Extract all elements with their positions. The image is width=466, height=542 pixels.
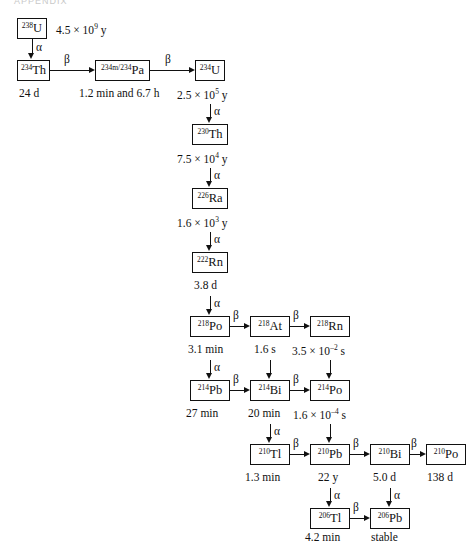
decay-mode-bi214-tl210: α — [274, 426, 280, 438]
element-symbol-po218: Po — [209, 320, 222, 333]
nuclide-box-pb210[interactable]: 210Pb — [310, 444, 350, 465]
nuclide-box-po210[interactable]: 210Po — [426, 444, 466, 465]
nuclide-box-rn222[interactable]: 222Rn — [192, 252, 228, 273]
nuclide-box-pa234[interactable]: 234m/234Pa — [95, 60, 150, 81]
arrowhead-u234-th230 — [206, 117, 212, 123]
nuclide-box-po214[interactable]: 214Po — [310, 380, 350, 401]
element-symbol-bi214: Bi — [270, 384, 282, 397]
connector-rn222-po218 — [210, 296, 211, 310]
element-symbol-th230: Th — [209, 128, 223, 141]
nuclide-box-bi214[interactable]: 214Bi — [250, 380, 290, 401]
arrowhead-bi210-tl206 — [326, 501, 332, 507]
connector-tl206-pb206 — [350, 518, 364, 519]
mass-number-pb206: 206 — [378, 512, 389, 520]
connector-at218-bi214 — [270, 360, 271, 374]
nuclide-box-th230[interactable]: 230Th — [192, 124, 228, 145]
decay-mode-tl210-pb210: β — [293, 438, 299, 450]
element-symbol-th234: Th — [32, 64, 46, 77]
halflife-u234: 2.5 × 105 y — [177, 88, 228, 101]
arrowhead-rn218-po214 — [326, 373, 332, 379]
arrowhead-u238-th234 — [28, 53, 34, 59]
mass-number-po210: 210 — [434, 448, 445, 456]
connector-bi214-po214 — [290, 390, 304, 391]
nuclide-box-u238[interactable]: 238U — [17, 18, 47, 39]
mass-number-po218: 218 — [198, 320, 209, 328]
connector-u238-th234 — [32, 39, 33, 54]
decay-mode-po218-pb214: α — [214, 362, 220, 374]
arrowhead-ra226-rn222 — [206, 245, 212, 251]
halflife-po214: 1.6 × 10–4 s — [293, 408, 346, 421]
nuclide-box-rn218[interactable]: 218Rn — [310, 316, 350, 337]
halflife-rn222: 3.8 d — [194, 280, 217, 292]
mass-number-po214: 214 — [318, 384, 329, 392]
element-symbol-pa234: Pa — [131, 64, 144, 77]
halflife-pb210: 22 y — [318, 472, 338, 484]
nuclide-box-u234[interactable]: 234U — [195, 60, 225, 81]
decay-mode-bi210-po210: β — [411, 438, 417, 450]
element-symbol-u238: U — [33, 22, 42, 35]
halflife-po210: 138 d — [427, 472, 453, 484]
nuclide-box-at218[interactable]: 218At — [250, 316, 290, 337]
decay-mode-u234-th230: α — [214, 106, 220, 118]
connector-pb214-bi214 — [230, 390, 244, 391]
element-symbol-rn218: Rn — [328, 320, 343, 333]
decay-mode-tl206-pb206: β — [353, 502, 359, 514]
nuclide-box-bi210[interactable]: 210Bi — [370, 444, 410, 465]
mass-number-ra226: 226 — [197, 192, 208, 200]
nuclide-box-ra226[interactable]: 226Ra — [192, 188, 228, 209]
arrowhead-po218-pb214 — [206, 373, 212, 379]
connector-po218-pb214 — [210, 360, 211, 374]
arrowhead-th230-ra226 — [206, 181, 212, 187]
nuclide-box-pb214[interactable]: 214Pb — [190, 380, 230, 401]
decay-mode-rn222-po218: α — [214, 298, 220, 310]
connector-bi210-po210 — [410, 454, 420, 455]
connector-th230-ra226 — [210, 168, 211, 182]
halflife-pb214: 27 min — [186, 408, 218, 420]
halflife-bi214: 20 min — [248, 408, 280, 420]
nuclide-box-th234[interactable]: 234Th — [17, 60, 50, 81]
mass-number-u234: 234 — [200, 64, 211, 72]
halflife-rn218: 3.5 × 10–2 s — [292, 344, 345, 357]
nuclide-box-pb206[interactable]: 206Pb — [370, 508, 410, 529]
connector-pb210-bi210 — [350, 454, 364, 455]
mass-number-at218: 218 — [258, 320, 269, 328]
connector-po210-pb206 — [390, 488, 391, 502]
cropped-page-header: APPENDIX — [14, 0, 68, 6]
connector-pa234-u234 — [150, 70, 189, 71]
decay-mode-bi214-po214: β — [293, 374, 299, 386]
nuclide-box-tl206[interactable]: 206Tl — [310, 508, 350, 529]
halflife-po218: 3.1 min — [188, 344, 223, 356]
decay-mode-pa234-u234: β — [165, 54, 171, 66]
arrowhead-at218-bi214 — [266, 373, 272, 379]
decay-mode-bi210-tl206: α — [334, 490, 340, 502]
decay-mode-th230-ra226: α — [214, 170, 220, 182]
halflife-pb206: stable — [371, 532, 398, 542]
halflife-bi210: 5.0 d — [373, 472, 396, 484]
connector-po214-pb210 — [330, 424, 331, 438]
decay-mode-ra226-rn222: α — [214, 234, 220, 246]
element-symbol-pb206: Pb — [389, 512, 402, 525]
mass-number-bi210: 210 — [378, 448, 389, 456]
connector-bi210-tl206 — [330, 488, 331, 502]
nuclide-box-po218[interactable]: 218Po — [190, 316, 230, 337]
halflife-th230: 7.5 × 104 y — [177, 152, 228, 165]
element-symbol-pb214: Pb — [209, 384, 222, 397]
connector-th234-pa234 — [50, 70, 89, 71]
element-symbol-tl206: Tl — [330, 512, 341, 525]
mass-number-tl210: 210 — [259, 448, 270, 456]
mass-number-tl206: 206 — [319, 512, 330, 520]
halflife-at218: 1.6 s — [254, 344, 276, 356]
mass-number-bi214: 214 — [258, 384, 269, 392]
arrowhead-rn222-po218 — [206, 309, 212, 315]
element-symbol-po210: Po — [445, 448, 458, 461]
mass-number-pb210: 210 — [318, 448, 329, 456]
decay-mode-po210-pb206: α — [394, 490, 400, 502]
decay-mode-pb210-bi210: β — [353, 438, 359, 450]
element-symbol-po214: Po — [329, 384, 342, 397]
halflife-tl206: 4.2 min — [305, 532, 340, 542]
decay-mode-at218-rn218: β — [293, 310, 299, 322]
halflife-tl210: 1.3 min — [245, 472, 280, 484]
nuclide-box-tl210[interactable]: 210Tl — [250, 444, 290, 465]
halflife-th234: 24 d — [19, 88, 39, 100]
halflife-ra226: 1.6 × 103 y — [177, 216, 228, 229]
